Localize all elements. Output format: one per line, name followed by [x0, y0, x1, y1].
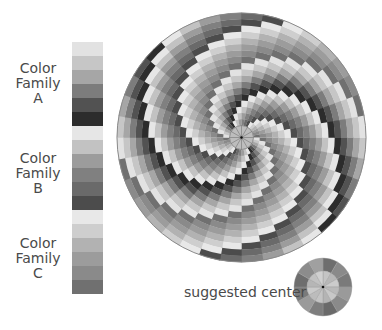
spiral-cell [278, 130, 285, 138]
spiral-cell [241, 174, 249, 181]
spiral-cell [241, 69, 253, 77]
label-line: Color [0, 151, 76, 166]
spiral-cell [241, 168, 248, 175]
family-b-label: Color Family B [0, 151, 76, 196]
color-swatch-strip [72, 42, 103, 294]
spiral-cell [231, 75, 242, 82]
suggested-center-label: suggested center [184, 284, 306, 300]
spiral-cell [230, 192, 241, 199]
spiral-cell [241, 75, 252, 82]
spiral-cell [179, 137, 186, 148]
spiral-cell [233, 180, 242, 187]
spiral-cell [284, 129, 291, 138]
spiral-cell [228, 63, 241, 71]
spiral-cell [241, 199, 253, 207]
color-swatch [72, 140, 103, 154]
color-swatch [72, 126, 103, 140]
center-hub [230, 126, 254, 150]
color-swatch [72, 238, 103, 252]
color-swatch [72, 182, 103, 196]
color-swatch [72, 42, 103, 56]
color-swatch [72, 56, 103, 70]
spiral-cell [241, 186, 251, 193]
spiral-cell [185, 137, 192, 147]
label-line: Family [0, 251, 76, 266]
color-swatch [72, 84, 103, 98]
spiral-cell [167, 137, 175, 150]
spiral-cell [290, 128, 297, 138]
spiral-cell [241, 205, 254, 213]
label-line: A [0, 91, 76, 106]
color-swatch [72, 112, 103, 126]
label-line: Family [0, 166, 76, 181]
label-line: Family [0, 76, 76, 91]
spiral-cell [229, 69, 241, 77]
color-swatch [72, 224, 103, 238]
spiral-cell [198, 137, 205, 145]
spiral-cell [290, 137, 297, 147]
spiral-cell [296, 127, 303, 138]
color-swatch [72, 70, 103, 84]
spiral-cell [303, 125, 311, 137]
spiral-cell [232, 186, 242, 193]
color-swatch [72, 168, 103, 182]
spiral-cell [309, 124, 317, 137]
label-line: C [0, 266, 76, 281]
spiral-cell [296, 137, 303, 148]
spiral-cell [179, 126, 186, 137]
spiral-cell [185, 128, 192, 138]
color-swatch [72, 210, 103, 224]
color-swatch [72, 280, 103, 294]
spiral-cell [173, 137, 181, 149]
spiral-cell [284, 137, 291, 146]
color-swatch [72, 98, 103, 112]
label-line: B [0, 181, 76, 196]
spiral-cell [192, 137, 199, 146]
spiral-cell [204, 137, 211, 144]
color-swatch [72, 252, 103, 266]
spiral-cell [303, 137, 311, 149]
spiral-cell [241, 180, 250, 187]
color-swatch [72, 154, 103, 168]
spiral-cell [272, 131, 279, 138]
color-swatch [72, 196, 103, 210]
color-swatch [72, 266, 103, 280]
spiral-cell [241, 192, 252, 199]
spiral-cell [232, 81, 242, 88]
label-line: Color [0, 236, 76, 251]
spiral-cell [173, 125, 181, 137]
spiral-cell [233, 88, 242, 95]
spiral-cell [241, 88, 250, 95]
spiral-cell [192, 129, 199, 138]
label-line: Color [0, 61, 76, 76]
spiral-cell [235, 100, 242, 107]
spiral-cell [234, 94, 242, 101]
spiral-cell [241, 81, 251, 88]
spiral-cell [229, 199, 241, 207]
family-c-label: Color Family C [0, 236, 76, 281]
family-a-label: Color Family A [0, 61, 76, 106]
